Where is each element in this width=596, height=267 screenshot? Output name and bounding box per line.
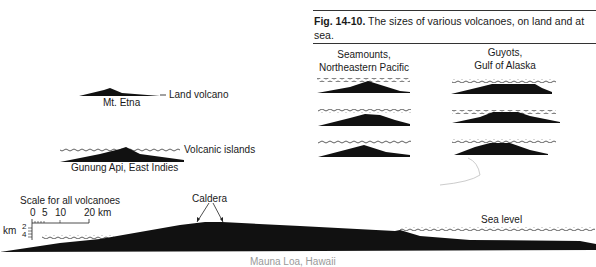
seamount-3 [318,140,411,157]
sea-level-label: Sea level [481,214,522,225]
scale-tick-0: 0 [30,207,36,218]
guyot-3 [452,139,556,155]
gunung-api-profile [60,147,184,162]
caldera-arrows [197,203,223,222]
guyots-title-line1: Guyots, [460,46,550,59]
scale-tick-20: 20 km [84,207,111,218]
scale-title: Scale for all volcanoes [20,195,120,206]
guyot-1 [451,79,556,94]
pencil-mark [440,158,480,185]
land-volcano-label: Land volcano [169,89,229,100]
mauna-loa-label: Mauna Loa, Hawaii [250,256,336,267]
seamounts-title-line1: Seamounts, [314,48,414,61]
seamount-2 [318,109,411,126]
etna-label: Mt. Etna [103,97,140,108]
seamounts-title-line2: Northeastern Pacific [314,61,414,74]
scale-vertical-unit: km [3,225,16,236]
guyots-title-line2: Gulf of Alaska [460,59,550,72]
guyot-2 [452,110,560,123]
seamount-1 [317,78,410,93]
etna-profile [79,88,166,96]
mauna-loa-profile [0,222,596,252]
volcanic-islands-label: Volcanic islands [184,144,255,155]
guyots-title: Guyots, Gulf of Alaska [460,46,550,72]
caldera-label: Caldera [192,193,227,204]
scale-tick-10: 10 [55,207,66,218]
scale-tick-5: 5 [42,207,48,218]
seamounts-title: Seamounts, Northeastern Pacific [314,48,414,74]
scale-vertical-tick-4: 4 [22,230,26,239]
gunung-api-label: Gunung Api, East Indies [71,162,178,173]
